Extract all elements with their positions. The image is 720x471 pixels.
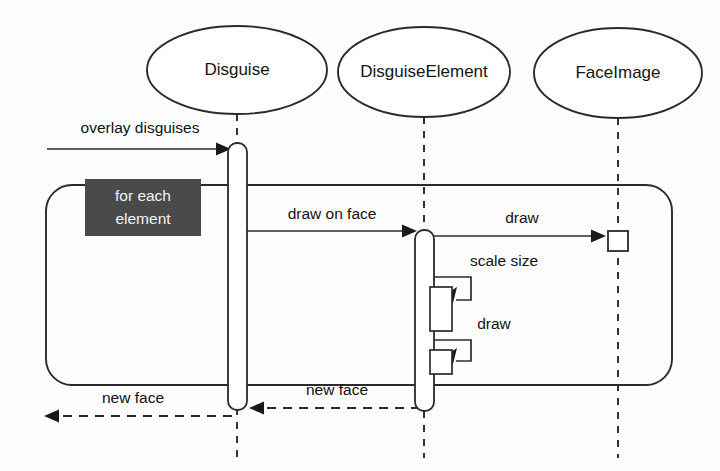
lifeline-head-faceimage[interactable]: FaceImage: [534, 28, 702, 118]
self-message-label: scale size: [470, 252, 538, 269]
self-messages-group: scale size draw: [430, 252, 538, 374]
lifeline-label: Disguise: [204, 60, 269, 79]
arrowhead-icon: [249, 402, 264, 415]
loop-note-for-each-element[interactable]: for each element: [85, 179, 201, 236]
activations-group: [228, 143, 628, 411]
message-overlay-disguises[interactable]: overlay disguises: [47, 119, 231, 155]
messages-group: overlay disguises draw on face draw new …: [44, 119, 606, 422]
message-draw-on-face[interactable]: draw on face: [247, 205, 417, 237]
activation-bar-disguise[interactable]: [228, 143, 247, 410]
message-new-face-element-to-disguise[interactable]: new face: [249, 381, 420, 414]
loop-note-line-2: element: [115, 210, 171, 227]
uml-sequence-diagram: overlay disguises draw on face draw new …: [0, 0, 720, 471]
message-new-face-disguise-to-caller[interactable]: new face: [44, 389, 232, 422]
message-label: overlay disguises: [81, 119, 200, 136]
lifeline-label: FaceImage: [575, 63, 660, 82]
activation-bar-faceimage[interactable]: [608, 231, 628, 251]
lifeline-head-disguise[interactable]: Disguise: [147, 26, 327, 114]
message-draw-to-faceimage[interactable]: draw: [434, 209, 606, 242]
nested-activation-bar[interactable]: [430, 350, 452, 374]
self-message-label: draw: [477, 315, 511, 332]
message-label: draw: [505, 209, 539, 226]
message-label: new face: [102, 389, 164, 406]
lifeline-label: DisguiseElement: [360, 62, 488, 81]
lifeline-head-disguiseelement[interactable]: DisguiseElement: [338, 27, 510, 117]
loop-note-line-1: for each: [115, 187, 171, 204]
arrowhead-icon: [591, 230, 606, 243]
nested-activation-bar[interactable]: [430, 287, 452, 331]
arrowhead-icon: [44, 410, 59, 423]
message-label: draw on face: [288, 205, 377, 222]
lifeline-heads-group: Disguise DisguiseElement FaceImage: [147, 26, 702, 118]
message-label: new face: [306, 381, 368, 398]
sequence-diagram-canvas: overlay disguises draw on face draw new …: [0, 0, 720, 471]
